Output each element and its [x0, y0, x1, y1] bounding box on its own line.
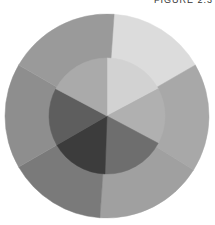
color-wheel-diagram: [0, 0, 215, 225]
